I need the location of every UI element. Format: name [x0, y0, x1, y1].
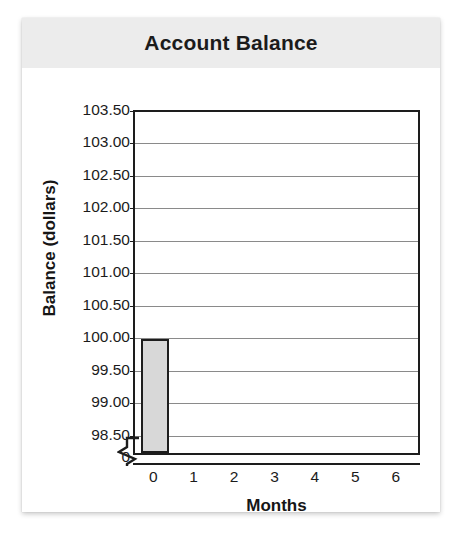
x-axis-line	[133, 463, 420, 465]
chart-card: Account Balance Balance (dollars) 103.50…	[22, 18, 440, 512]
y-tick-label: 99.50	[60, 361, 130, 379]
x-axis-title: Months	[133, 496, 420, 516]
y-tick-label: 103.00	[60, 133, 130, 151]
y-tick-mark	[130, 403, 135, 404]
y-axis-break-icon	[117, 436, 143, 466]
y-tick-label: 99.00	[60, 393, 130, 411]
y-tick-mark	[130, 143, 135, 144]
y-axis-title: Balance (dollars)	[40, 158, 60, 338]
gridline	[135, 143, 418, 144]
y-tick-mark	[130, 241, 135, 242]
y-tick-mark	[130, 176, 135, 177]
y-tick-mark	[130, 111, 135, 112]
gridline	[135, 338, 418, 339]
y-tick-label: 103.50	[60, 101, 130, 119]
y-tick-mark	[130, 371, 135, 372]
x-tick-label: 2	[219, 468, 249, 486]
y-tick-label: 102.50	[60, 166, 130, 184]
y-tick-label: 100.50	[60, 296, 130, 314]
x-tick-label: 6	[381, 468, 411, 486]
y-tick-mark	[130, 306, 135, 307]
gridline	[135, 436, 418, 437]
gridline	[135, 208, 418, 209]
y-tick-mark	[130, 208, 135, 209]
gridline	[135, 176, 418, 177]
x-axis-tick-labels: 0123456	[133, 468, 420, 494]
y-axis-tick-labels: 103.50103.00102.50102.00101.50101.00100.…	[60, 110, 130, 455]
x-tick-label: 4	[300, 468, 330, 486]
bar	[141, 339, 169, 453]
y-tick-label: 101.50	[60, 231, 130, 249]
x-tick-label: 0	[138, 468, 168, 486]
y-tick-label: 100.00	[60, 328, 130, 346]
page-title: Account Balance	[144, 31, 317, 55]
gridline	[135, 403, 418, 404]
y-tick-mark	[130, 273, 135, 274]
x-tick-label: 3	[260, 468, 290, 486]
chart-title-band: Account Balance	[22, 18, 440, 68]
gridline	[135, 306, 418, 307]
gridline	[135, 273, 418, 274]
gridline	[135, 371, 418, 372]
x-tick-label: 5	[340, 468, 370, 486]
gridline	[135, 241, 418, 242]
chart-figure: Balance (dollars) 103.50103.00102.50102.…	[22, 68, 440, 512]
y-tick-label: 101.00	[60, 263, 130, 281]
y-tick-label: 102.00	[60, 198, 130, 216]
plot-area	[133, 110, 420, 455]
x-tick-label: 1	[179, 468, 209, 486]
y-tick-mark	[130, 338, 135, 339]
